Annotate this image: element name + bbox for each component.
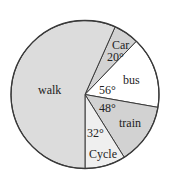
slice-label-walk: walk xyxy=(38,83,61,97)
slice-label-bus: bus xyxy=(123,73,140,87)
angle-label-bus: 56° xyxy=(99,83,116,97)
angle-label-cycle: 32° xyxy=(87,126,104,140)
pie-chart: walk Car 20° bus 56° 48° train 32° Cycle xyxy=(0,0,169,178)
slice-label-cycle: Cycle xyxy=(89,147,117,161)
angle-label-train: 48° xyxy=(99,101,116,115)
angle-label-car: 20° xyxy=(107,50,124,64)
slice-label-train: train xyxy=(119,116,141,130)
